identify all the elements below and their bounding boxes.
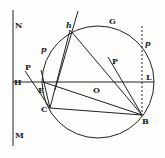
label-M: M <box>15 130 24 140</box>
label-E: E <box>38 85 44 95</box>
label-P-left: P <box>25 62 31 72</box>
label-H: H <box>14 77 22 87</box>
label-O: O <box>93 85 100 95</box>
label-P-center: P <box>112 56 118 66</box>
line-hB <box>70 30 142 115</box>
label-B: B <box>142 116 149 126</box>
geometry-diagram: N H M h G p p P P E O L C B <box>0 0 165 158</box>
label-p-left: p <box>41 44 47 54</box>
label-p-right: p <box>145 38 151 48</box>
label-G: G <box>109 16 116 26</box>
label-L: L <box>146 72 152 82</box>
line-CB <box>50 108 142 115</box>
label-h: h <box>66 20 72 30</box>
label-N: N <box>15 20 22 30</box>
line-hC <box>50 30 70 108</box>
diagram-canvas: N H M h G p p P P E O L C B <box>0 0 165 158</box>
label-C: C <box>41 104 47 114</box>
